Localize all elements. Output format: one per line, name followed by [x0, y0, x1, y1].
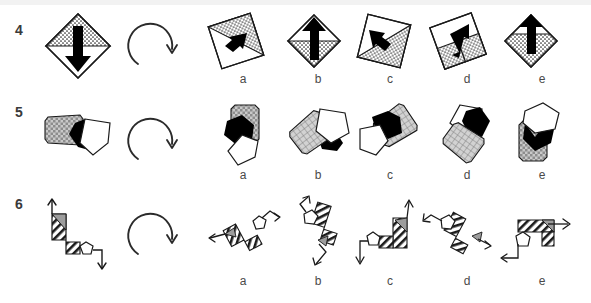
row-number-6: 6: [15, 196, 23, 212]
row4-option-a-figure[interactable]: [205, 10, 267, 72]
row6-option-c-figure[interactable]: [353, 196, 427, 270]
row4-option-d-figure[interactable]: [425, 10, 491, 72]
row6-prompt-figure: [36, 196, 114, 276]
row6-option-letter-b: b: [303, 274, 333, 288]
row4-option-e-figure[interactable]: [500, 10, 562, 72]
row6-option-letter-d: d: [452, 274, 482, 288]
row5-option-letter-e: e: [527, 168, 557, 182]
row5-option-a-figure[interactable]: [210, 99, 272, 173]
row4-option-letter-b: b: [303, 72, 333, 86]
row6-option-letter-c: c: [375, 274, 405, 288]
row6-option-a-figure[interactable]: [202, 200, 284, 260]
row4-option-letter-c: c: [375, 72, 405, 86]
row6-option-b-figure[interactable]: [288, 192, 350, 272]
row4-option-c-figure[interactable]: [353, 10, 415, 72]
row5-option-letter-a: a: [228, 168, 258, 182]
question-row-5: 5: [0, 95, 591, 190]
row5-option-b-figure[interactable]: [285, 103, 361, 167]
row4-option-letter-e: e: [527, 72, 557, 86]
row5-option-d-figure[interactable]: [424, 101, 500, 171]
row6-option-letter-a: a: [228, 274, 258, 288]
row-number-4: 4: [15, 22, 23, 38]
row6-option-e-figure[interactable]: [498, 198, 576, 272]
row5-option-letter-d: d: [452, 168, 482, 182]
row4-option-letter-a: a: [228, 72, 258, 86]
row4-option-letter-d: d: [452, 72, 482, 86]
row5-option-c-figure[interactable]: [352, 103, 428, 167]
question-row-4: 4: [0, 0, 591, 95]
row4-option-b-figure[interactable]: [283, 10, 345, 72]
row5-rotation-icon: [122, 107, 186, 171]
row-number-5: 5: [15, 104, 23, 120]
row4-rotation-icon: [122, 12, 186, 76]
row5-option-letter-b: b: [303, 168, 333, 182]
test-sheet: 4: [0, 0, 591, 303]
row6-option-letter-e: e: [527, 274, 557, 288]
row5-option-e-figure[interactable]: [505, 99, 567, 173]
row5-option-letter-c: c: [375, 168, 405, 182]
question-row-6: 6: [0, 190, 591, 303]
row6-option-d-figure[interactable]: [420, 202, 502, 262]
row5-prompt-figure: [38, 105, 118, 167]
row4-prompt-figure: [40, 8, 116, 84]
row6-rotation-icon: [122, 202, 186, 266]
